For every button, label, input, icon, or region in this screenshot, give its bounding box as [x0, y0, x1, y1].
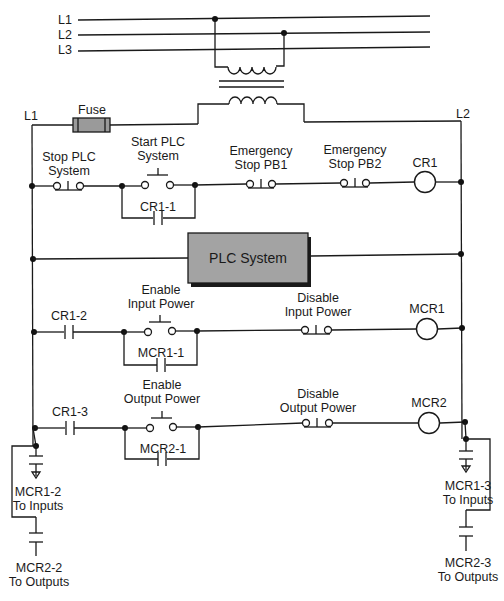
- plc-master-control-ladder-diagram: L1 L2 L3 L1 L2 Fuse: [0, 0, 504, 601]
- three-phase-supply: L1 L2 L3: [58, 13, 430, 57]
- right-output-contacts: MCR1-3 To Inputs MCR2-3 To Outputs: [438, 422, 498, 584]
- control-transformer: [198, 19, 304, 124]
- cr1-coil-icon: [415, 172, 436, 193]
- secondary-winding-icon: [229, 97, 277, 104]
- rung-1: Stop PLC System Start PLC System CR1-1: [29, 135, 464, 225]
- rail: [461, 121, 462, 439]
- estop-pb1-nc-pushbutton-icon: [247, 179, 276, 188]
- mcr2-2-label: To Outputs: [9, 575, 69, 589]
- mcr1-2-label: To Inputs: [13, 499, 64, 513]
- wire: [33, 258, 188, 259]
- wire: [110, 124, 198, 125]
- mcr1-2-label: MCR1-2: [15, 485, 62, 499]
- disable-output-power-label: Output Power: [280, 401, 356, 415]
- primary-lead: [215, 19, 228, 67]
- wire: [440, 422, 465, 423]
- disable-output-power-nc-pushbutton-icon: [303, 418, 333, 427]
- cr1-3-no-contact-icon: [66, 421, 74, 435]
- left-rail-label: L1: [24, 109, 38, 123]
- mcr2-3-label: MCR2-3: [445, 556, 492, 570]
- enable-output-power-label: Output Power: [124, 392, 200, 406]
- disable-output-power-label: Disable: [297, 387, 339, 401]
- junction-node: [459, 325, 465, 331]
- cr1-1-label: CR1-1: [140, 200, 176, 214]
- plc-system-label: PLC System: [209, 250, 287, 266]
- cr1-coil-label: CR1: [412, 156, 437, 170]
- rail: [32, 125, 33, 446]
- left-output-contacts: MCR1-2 To Inputs MCR2-2 To Outputs: [9, 428, 69, 589]
- rung-3: CR1-2 Enable Input Power MCR1-1 Disable …: [31, 283, 465, 372]
- mcr2-coil-icon: [419, 413, 440, 434]
- mcr1-3-label: MCR1-3: [445, 479, 492, 493]
- control-power-feed: L1 L2 Fuse: [24, 103, 470, 132]
- mcr2-1-label: MCR2-1: [140, 442, 187, 456]
- mcr2-3-label: To Outputs: [438, 570, 498, 584]
- enable-input-power-label: Input Power: [128, 297, 195, 311]
- estop-pb1-label: Emergency: [229, 144, 293, 158]
- secondary-lead: [277, 104, 304, 122]
- wire: [195, 184, 246, 185]
- wire: [311, 254, 461, 256]
- start-plc-label: Start PLC: [131, 135, 185, 149]
- mcr1-3-label: To Inputs: [443, 493, 494, 507]
- enable-input-power-label: Enable: [142, 283, 181, 297]
- stop-plc-label: System: [48, 164, 90, 178]
- right-power-rail: [461, 121, 462, 439]
- mcr2-2-no-contact-icon: [29, 533, 43, 556]
- supply-line-l2: [78, 32, 430, 35]
- wire: [438, 328, 462, 329]
- wire: [276, 183, 340, 184]
- estop-pb1-label: Stop PB1: [235, 158, 288, 172]
- mcr1-3-no-contact-icon: [459, 451, 473, 472]
- enable-output-power-label: Enable: [143, 378, 182, 392]
- estop-pb2-label: Stop PB2: [329, 157, 382, 171]
- junction-node: [458, 179, 464, 185]
- mcr1-coil-icon: [417, 319, 438, 340]
- mcr1-coil-label: MCR1: [409, 302, 444, 316]
- estop-pb2-nc-pushbutton-icon: [341, 178, 370, 187]
- mcr2-2-label: MCR2-2: [16, 561, 63, 575]
- rung-4: CR1-3 Enable Output Power MCR2-1 Disable…: [32, 378, 468, 466]
- wire: [198, 423, 303, 427]
- supply-line-l3-label: L3: [58, 43, 72, 57]
- supply-line-l1-label: L1: [58, 13, 72, 27]
- disable-input-power-label: Input Power: [285, 305, 352, 319]
- left-power-rail: [32, 125, 33, 446]
- junction-node: [458, 251, 464, 257]
- mcr1-1-label: MCR1-1: [138, 346, 185, 360]
- wire: [304, 121, 461, 122]
- primary-winding-icon: [228, 67, 276, 74]
- cr1-3-label: CR1-3: [52, 405, 88, 419]
- rung-2: PLC System: [30, 233, 464, 287]
- start-plc-no-pushbutton-icon: [142, 168, 174, 189]
- right-rail-label: L2: [456, 107, 470, 121]
- fuse-label: Fuse: [78, 103, 106, 117]
- stop-plc-nc-pushbutton-icon: [54, 181, 84, 190]
- enable-input-power-no-pushbutton-icon: [145, 315, 176, 336]
- estop-pb2-label: Emergency: [323, 143, 387, 157]
- start-plc-label: System: [137, 149, 179, 163]
- wire: [197, 330, 302, 331]
- disable-input-power-nc-pushbutton-icon: [302, 325, 332, 334]
- wire: [370, 182, 414, 183]
- stop-plc-label: Stop PLC: [42, 150, 96, 164]
- primary-lead: [276, 33, 284, 66]
- supply-line-l2-label: L2: [58, 28, 72, 42]
- supply-line-l3: [78, 47, 430, 51]
- mcr2-coil-label: MCR2: [411, 396, 446, 410]
- cr1-2-label: CR1-2: [51, 309, 87, 323]
- enable-output-power-no-pushbutton-icon: [147, 411, 177, 432]
- cr1-2-no-contact-icon: [65, 325, 73, 339]
- wire: [332, 329, 416, 330]
- disable-input-power-label: Disable: [297, 291, 339, 305]
- supply-line-l1: [78, 16, 430, 20]
- mcr2-3-no-contact-icon: [459, 527, 473, 551]
- mcr1-1-no-contact-icon: [157, 358, 165, 372]
- secondary-lead: [198, 104, 229, 124]
- mcr1-2-no-contact-icon: [29, 456, 43, 478]
